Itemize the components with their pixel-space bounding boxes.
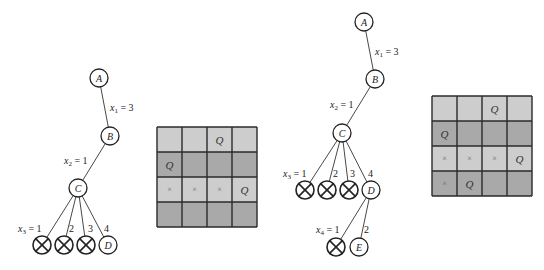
attacked-marker: ×	[192, 185, 197, 194]
board-cell	[157, 127, 182, 152]
tree-edge	[82, 196, 104, 237]
queen-marker: Q	[441, 128, 449, 140]
board-cell	[432, 96, 457, 121]
board-cell	[232, 152, 257, 177]
pruned-node-icon	[340, 181, 358, 199]
board-cell	[182, 127, 207, 152]
edge-label: x2 = 1	[329, 99, 354, 112]
tree-node-e: E	[350, 238, 368, 256]
tree-edge	[79, 197, 84, 236]
tree-edge	[343, 142, 348, 181]
board-cell	[182, 152, 207, 177]
chessboard-left: QQ×××Q	[157, 127, 257, 227]
svg-text:B: B	[107, 131, 113, 142]
edge-label: 3	[88, 223, 93, 234]
svg-text:A: A	[360, 17, 368, 28]
edge-label: 2	[364, 224, 369, 235]
svg-text:D: D	[103, 240, 112, 251]
tree-node-d: D	[362, 181, 380, 199]
attacked-marker: ×	[467, 154, 472, 163]
svg-text:A: A	[95, 73, 103, 84]
board-cell	[507, 96, 532, 121]
edge-label: 3	[350, 168, 355, 179]
edge-label: x1 = 3	[109, 102, 134, 115]
board-cell	[207, 152, 232, 177]
board-cell	[232, 202, 257, 227]
chessboard-right: QQ×××Q×Q	[432, 96, 532, 196]
board-cell	[457, 121, 482, 146]
edge-label: x1 = 3	[374, 46, 399, 59]
pruned-node-icon	[55, 236, 73, 254]
board-cell	[482, 171, 507, 196]
pruned-node-icon	[296, 181, 314, 199]
search-tree-right: ABCDEx1 = 3x2 = 1x3 = 1234x4 = 12	[282, 13, 399, 256]
search-tree-left: ABCDx1 = 3x2 = 1x3 = 1234	[17, 69, 134, 254]
tree-edge	[366, 31, 374, 70]
tree-node-d: D	[99, 236, 117, 254]
board-cell	[507, 121, 532, 146]
attacked-marker: ×	[442, 179, 447, 188]
pruned-node-icon	[318, 181, 336, 199]
svg-text:E: E	[355, 242, 362, 253]
svg-text:D: D	[366, 185, 375, 196]
tree-edge	[341, 198, 367, 240]
edge-label: x4 = 1	[315, 224, 340, 237]
queen-marker: Q	[241, 184, 249, 196]
svg-text:C: C	[75, 183, 82, 194]
tree-node-a: A	[355, 13, 373, 31]
board-cell	[157, 202, 182, 227]
queen-marker: Q	[216, 134, 224, 146]
svg-text:C: C	[339, 128, 346, 139]
attacked-marker: ×	[442, 154, 447, 163]
svg-text:B: B	[372, 74, 378, 85]
board-cell	[182, 202, 207, 227]
edge-label: x2 = 1	[63, 155, 88, 168]
edge-label: x3 = 1	[282, 168, 307, 181]
edge-label: 4	[368, 168, 373, 179]
edge-label: 2	[69, 223, 74, 234]
attacked-marker: ×	[167, 185, 172, 194]
edge-label: 2	[333, 168, 338, 179]
attacked-marker: ×	[217, 185, 222, 194]
tree-node-a: A	[90, 69, 108, 87]
edge-label: 4	[104, 223, 109, 234]
queen-marker: Q	[166, 159, 174, 171]
tree-node-b: B	[366, 70, 384, 88]
backtracking-diagram: ABCDx1 = 3x2 = 1x3 = 1234 QQ×××Q ABCDEx1…	[0, 0, 544, 270]
tree-node-c: C	[69, 179, 87, 197]
board-cell	[457, 96, 482, 121]
pruned-node-icon	[77, 236, 95, 254]
queen-marker: Q	[491, 103, 499, 115]
queen-marker: Q	[466, 178, 474, 190]
pruned-node-icon	[33, 236, 51, 254]
tree-node-c: C	[333, 124, 351, 142]
pruned-node-icon	[327, 238, 345, 256]
board-cell	[232, 127, 257, 152]
board-cell	[507, 171, 532, 196]
queen-marker: Q	[516, 153, 524, 165]
tree-edge	[101, 87, 109, 127]
edge-label: x3 = 1	[17, 223, 42, 236]
board-cell	[207, 202, 232, 227]
board-cell	[482, 121, 507, 146]
attacked-marker: ×	[492, 154, 497, 163]
tree-node-b: B	[101, 127, 119, 145]
